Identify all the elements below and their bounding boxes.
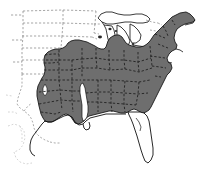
range-map-canvas	[0, 0, 202, 179]
range-map-figure	[0, 0, 202, 179]
